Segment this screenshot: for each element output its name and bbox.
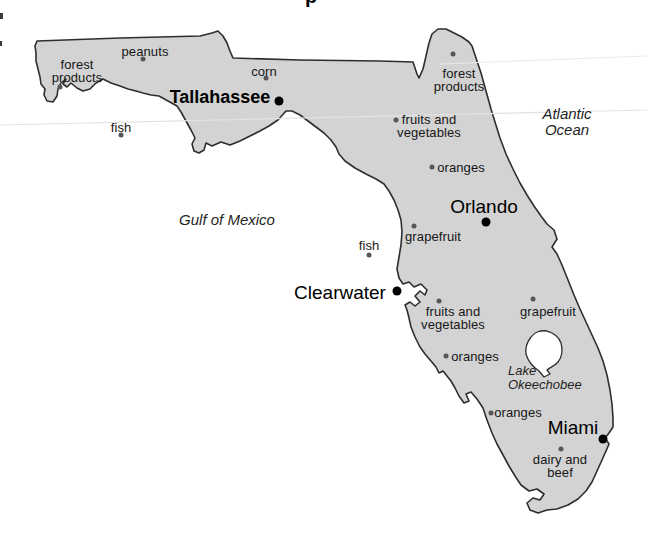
product-dot-forest-products-north: [451, 52, 456, 57]
product-dot-oranges-north: [430, 165, 435, 170]
product-label-fish-gulf: fish: [359, 239, 380, 252]
product-dot-fish-panhandle: [119, 133, 124, 138]
product-dot-fruits-vegetables-north: [394, 118, 399, 123]
florida-products-map: p peanutsforest productscornforest produ…: [0, 0, 647, 538]
city-dot-orlando: [482, 218, 491, 227]
product-label-fruits-vegetables-tampa: fruits and vegetables: [421, 305, 485, 331]
product-dot-fruits-vegetables-tampa: [437, 299, 442, 304]
city-label-clearwater: Clearwater: [294, 283, 386, 302]
product-dot-oranges-south: [489, 411, 494, 416]
product-dot-grapefruit-east: [531, 297, 536, 302]
product-dot-oranges-central: [444, 354, 449, 359]
city-dot-miami: [599, 435, 608, 444]
label-layer: peanutsforest productscornforest product…: [0, 0, 647, 538]
product-dot-fish-gulf: [367, 253, 372, 258]
product-label-oranges-central: oranges: [451, 350, 499, 363]
city-label-tallahassee: Tallahassee: [170, 88, 271, 106]
product-label-grapefruit-west: grapefruit: [405, 230, 461, 243]
city-dot-clearwater: [393, 287, 402, 296]
city-dot-tallahassee: [275, 97, 284, 106]
product-dot-forest-products-west: [58, 85, 63, 90]
product-label-peanuts: peanuts: [122, 45, 169, 58]
water-label-lake-okeechobee: Lake Okeechobee: [508, 364, 582, 391]
city-label-orlando: Orlando: [450, 197, 518, 216]
product-dot-dairy-beef: [559, 447, 564, 452]
water-label-atlantic-ocean: Atlantic Ocean: [527, 106, 607, 138]
product-label-forest-products-west: forest products: [52, 58, 103, 84]
product-dot-peanuts: [141, 57, 146, 62]
water-label-gulf-of-mexico: Gulf of Mexico: [179, 212, 275, 228]
product-label-oranges-north: oranges: [437, 161, 485, 174]
city-label-miami: Miami: [548, 418, 599, 437]
product-label-oranges-south: oranges: [494, 406, 542, 419]
product-dot-grapefruit-west: [412, 224, 417, 229]
product-label-grapefruit-east: grapefruit: [520, 305, 576, 318]
product-dot-corn: [264, 76, 269, 81]
product-label-forest-products-north: forest products: [434, 67, 485, 93]
product-label-fruits-vegetables-north: fruits and vegetables: [397, 113, 461, 139]
product-label-dairy-beef: dairy and beef: [533, 453, 587, 479]
